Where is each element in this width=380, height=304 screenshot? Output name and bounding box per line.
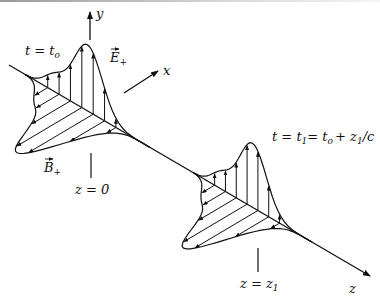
svg-text:E+: E+ — [109, 50, 127, 67]
b-field-arrow — [35, 88, 48, 96]
b-field-label: B+ — [43, 159, 61, 177]
z0-label: z = 0 — [74, 182, 109, 197]
x-axis-arrow — [124, 71, 158, 93]
e-field-label: E+ — [109, 49, 127, 67]
em-wave-diagram: y x z t=to E+ B+ z = 0 t = t1= to+ z1/c … — [0, 0, 380, 304]
z-axis — [9, 65, 370, 276]
b-field-arrow — [203, 192, 225, 205]
b-field-arrow — [107, 127, 116, 132]
b-field-envelope-1 — [15, 74, 150, 153]
b-field-arrow — [199, 198, 237, 220]
x-axis-label: x — [163, 63, 171, 78]
b-field-arrow — [202, 185, 215, 192]
e-field-envelope-2 — [193, 143, 312, 242]
b-field-arrow — [70, 121, 104, 141]
z-axis-label: z — [348, 281, 356, 296]
z1-label: z = z1 — [239, 276, 279, 293]
b-field-arrow — [32, 101, 71, 124]
b-field-arrow — [36, 94, 59, 108]
svg-text:B+: B+ — [43, 160, 61, 177]
b-field-arrow — [235, 217, 268, 237]
y-axis-label: y — [95, 6, 104, 21]
b-field-arrow — [271, 223, 280, 228]
e-field-envelope-1 — [25, 44, 150, 147]
pulse1-time-label: t=to — [25, 43, 60, 60]
pulse2-time-label: t = t1= to+ z1/c — [272, 129, 375, 146]
